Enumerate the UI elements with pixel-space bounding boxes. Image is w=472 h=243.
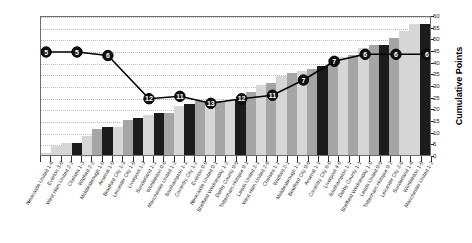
y-tick-label: 55 [433, 25, 440, 31]
y-tick-label: 20 [433, 106, 440, 112]
y-tick-label: 35 [433, 71, 440, 77]
y-tick-label: 40 [433, 60, 440, 66]
y-tick-label: 5 [433, 141, 436, 147]
y-tick-label: 15 [433, 118, 440, 124]
y-tick-label: 30 [433, 83, 440, 89]
svg-text:5: 5 [44, 49, 48, 56]
svg-text:6: 6 [394, 51, 398, 58]
plot-area: 556121113121177666 [40, 16, 431, 156]
y-axis-title-label: Cumulative Points [454, 47, 464, 126]
y-tick-label: 0 [433, 153, 436, 159]
svg-text:13: 13 [207, 100, 215, 107]
svg-text:5: 5 [75, 49, 79, 56]
svg-text:12: 12 [238, 95, 246, 102]
y-axis-title: Cumulative Points [449, 16, 469, 156]
svg-text:12: 12 [145, 95, 153, 102]
svg-text:7: 7 [301, 77, 305, 84]
svg-text:11: 11 [269, 92, 277, 99]
y-tick-label: 50 [433, 36, 440, 42]
svg-text:6: 6 [106, 52, 110, 59]
x-axis-labels: Newcastle United 1-0Everton 3-0West Ham … [40, 160, 431, 243]
chart-container: 556121113121177666 051015202530354045505… [0, 0, 472, 243]
line-series: 556121113121177666 [41, 17, 431, 156]
svg-text:7: 7 [332, 58, 336, 65]
y-tick-label: 45 [433, 48, 440, 54]
svg-text:6: 6 [425, 51, 429, 58]
svg-text:11: 11 [176, 93, 184, 100]
y-tick-label: 60 [433, 13, 440, 19]
y-tick-label: 10 [433, 130, 440, 136]
y-tick-label: 25 [433, 95, 440, 101]
svg-text:6: 6 [363, 51, 367, 58]
line-svg: 556121113121177666 [41, 17, 431, 156]
